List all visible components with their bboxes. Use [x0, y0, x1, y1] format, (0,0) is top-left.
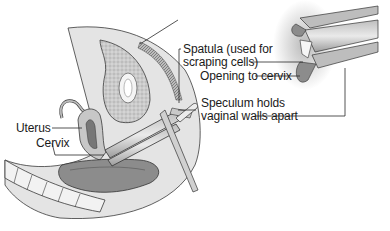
label-uterus: Uterus — [16, 122, 51, 135]
label-opening-to-cervix: Opening to cervix — [200, 70, 292, 83]
hair-leader — [140, 20, 178, 44]
label-cervix: Cervix — [36, 137, 69, 150]
label-speculum-line2: vaginal walls apart — [201, 110, 298, 123]
label-spatula-line2: scraping cells) — [183, 56, 258, 69]
illustration — [0, 0, 390, 231]
